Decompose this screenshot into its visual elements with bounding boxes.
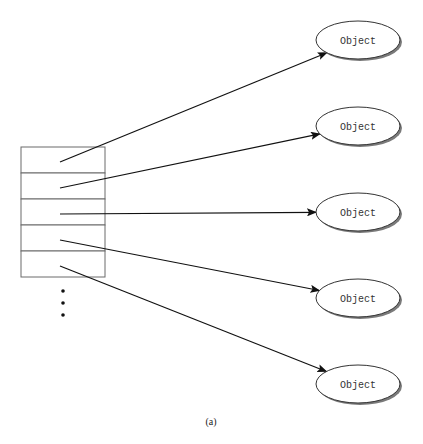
object-node: Object bbox=[316, 193, 402, 233]
pointer-arrow bbox=[60, 266, 326, 371]
objects: ObjectObjectObjectObjectObject bbox=[316, 21, 402, 405]
continuation-dot bbox=[61, 301, 65, 305]
continuation-dot bbox=[61, 313, 65, 317]
array-cell bbox=[21, 173, 105, 199]
array-cell bbox=[21, 225, 105, 251]
object-node: Object bbox=[316, 279, 402, 319]
reference-array-diagram: ObjectObjectObjectObjectObject (a) bbox=[0, 0, 423, 444]
object-label: Object bbox=[340, 380, 376, 391]
pointer-arrow bbox=[60, 53, 327, 162]
array-cell bbox=[21, 147, 105, 173]
array bbox=[21, 147, 105, 277]
object-label: Object bbox=[340, 294, 376, 305]
array-cell bbox=[21, 199, 105, 225]
continuation-dot bbox=[61, 289, 65, 293]
object-label: Object bbox=[340, 36, 376, 47]
figure-caption: (a) bbox=[205, 416, 216, 428]
object-label: Object bbox=[340, 122, 376, 133]
object-node: Object bbox=[316, 365, 402, 405]
object-label: Object bbox=[340, 208, 376, 219]
object-node: Object bbox=[316, 107, 402, 147]
continuation-dots bbox=[61, 289, 65, 317]
array-cell bbox=[21, 251, 105, 277]
object-node: Object bbox=[316, 21, 402, 61]
